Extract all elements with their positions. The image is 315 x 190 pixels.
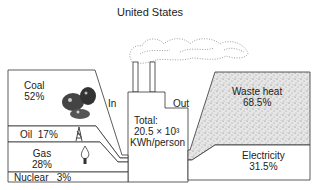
chimney-right: [150, 62, 155, 92]
electricity-label: Electricity 31.5%: [242, 150, 285, 172]
gas-label: Gas 28%: [32, 148, 52, 170]
waste-heat-percent: 68.5%: [232, 97, 282, 108]
oil-label: Oil 17%: [20, 129, 58, 140]
nuclear-percent: 3%: [57, 172, 71, 183]
coal-name: Coal: [24, 80, 45, 91]
diagram-title: United States: [117, 7, 183, 18]
nuclear-name: Nuclear: [14, 172, 48, 183]
gas-name: Gas: [32, 148, 52, 159]
smoke-cloud-icon: [130, 39, 248, 64]
electricity-name: Electricity: [242, 150, 285, 161]
out-label: Out: [173, 98, 189, 109]
total-title: Total:: [130, 115, 185, 126]
waste-heat-label: Waste heat 68.5%: [232, 86, 282, 108]
total-unit: KWh/person: [130, 137, 185, 148]
waste-heat-name: Waste heat: [232, 86, 282, 97]
total-value: 20.5 × 10³: [130, 126, 185, 137]
gas-percent: 28%: [32, 159, 52, 170]
total-label: Total: 20.5 × 10³ KWh/person: [130, 115, 185, 148]
oil-name: Oil: [20, 129, 32, 140]
coal-label: Coal 52%: [24, 80, 45, 102]
chimney-left: [133, 62, 138, 92]
in-label: In: [108, 98, 116, 109]
nuclear-label: Nuclear 3%: [14, 172, 71, 183]
oil-percent: 17%: [38, 129, 58, 140]
coal-percent: 52%: [24, 91, 45, 102]
electricity-percent: 31.5%: [242, 161, 285, 172]
